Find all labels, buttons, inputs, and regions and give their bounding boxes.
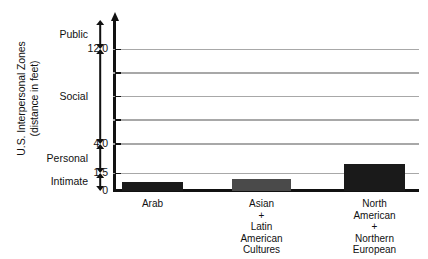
bar-category-label-line: +	[202, 210, 322, 222]
y-axis-tick-label: 0	[102, 185, 108, 196]
y-axis-tick-mark	[115, 143, 121, 145]
y-axis-arrowhead-icon	[111, 12, 119, 21]
bar[interactable]	[344, 164, 405, 191]
bar-category-label-line: European	[315, 244, 428, 256]
gridline	[113, 96, 419, 98]
bar-category-label-line: North	[315, 198, 428, 210]
gridline	[113, 119, 419, 121]
y-axis-line	[113, 20, 116, 192]
y-axis-title-line-1: U.S. Interpersonal Zones	[15, 14, 28, 184]
y-axis-tick-mark	[115, 119, 121, 121]
bar-category-label: Arab	[93, 198, 213, 210]
y-axis-tick-label: 1.5	[93, 167, 108, 178]
bar-category-label-line: Cultures	[202, 244, 322, 256]
bar-category-label-line: Northern	[315, 233, 428, 245]
gridline	[113, 143, 419, 145]
bar-category-label-line: Arab	[93, 198, 213, 210]
y-axis-tick-mark	[115, 49, 121, 51]
bar-category-label-line: Asian	[202, 198, 322, 210]
y-axis-tick-mark	[115, 173, 121, 175]
bar-category-label-line: American	[315, 210, 428, 222]
gridline	[113, 72, 419, 74]
bar-category-label-line: Latin	[202, 221, 322, 233]
bar-category-label-line: +	[315, 221, 428, 233]
y-axis-tick-label-group: 12.04.01.50	[74, 0, 108, 259]
y-axis-tick-mark	[115, 96, 121, 98]
bar-category-label: NorthAmerican+NorthernEuropean	[315, 198, 428, 256]
interpersonal-zones-bar-chart: U.S. Interpersonal Zones (distance in fe…	[0, 0, 428, 259]
bar-category-label-line: American	[202, 233, 322, 245]
y-axis-tick-label: 12.0	[88, 43, 108, 54]
bar[interactable]	[122, 182, 183, 191]
bar-category-label: Asian+LatinAmericanCultures	[202, 198, 322, 256]
y-axis-tick-label: 4.0	[93, 138, 108, 149]
gridline	[113, 49, 419, 51]
bar[interactable]	[232, 179, 291, 191]
y-axis-tick-mark	[115, 72, 121, 74]
plot-area	[113, 14, 417, 192]
